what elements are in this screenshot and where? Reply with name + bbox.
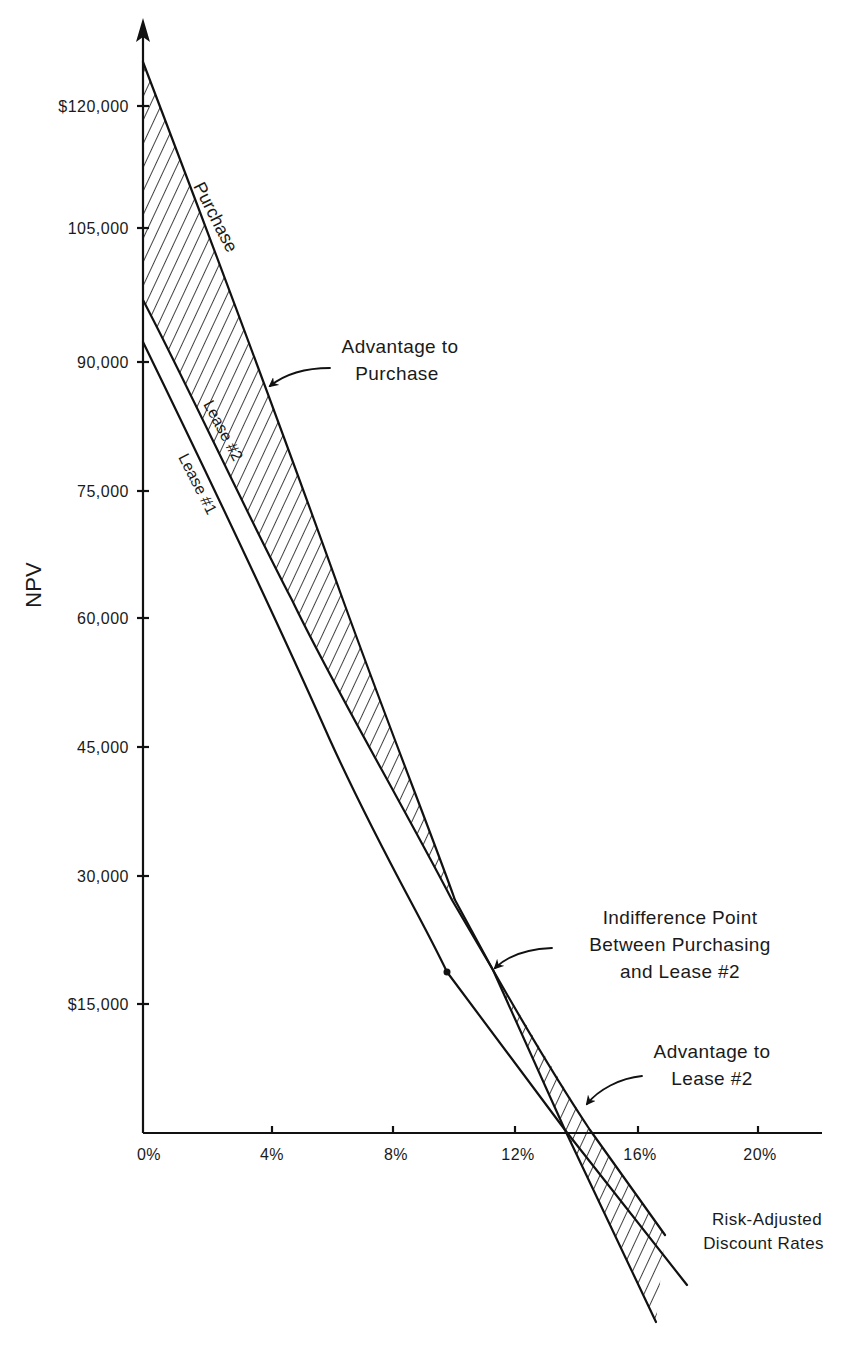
adv-lease2-text-2: Lease #2 <box>671 1068 752 1089</box>
x-tick-16: 16% <box>623 1146 657 1163</box>
y-tick-labels: $120,000 105,000 90,000 75,000 60,000 45… <box>58 98 129 1013</box>
x-tick-4: 4% <box>260 1146 284 1163</box>
x-tick-20: 20% <box>743 1146 777 1163</box>
adv-purchase-text-2: Purchase <box>355 363 438 384</box>
indiff-text-2: Between Purchasing <box>589 934 770 955</box>
y-tick-90000: 90,000 <box>77 354 129 371</box>
indiff-text-3: and Lease #2 <box>620 961 740 982</box>
x-tick-8: 8% <box>384 1146 408 1163</box>
y-tick-105000: 105,000 <box>68 220 129 237</box>
lease1-kink-point <box>444 969 451 976</box>
adv-purchase-arrow-icon <box>270 368 330 386</box>
adv-lease2-text-1: Advantage to <box>654 1041 771 1062</box>
x-tick-labels: 0% 4% 8% 12% 16% 20% <box>137 1146 777 1163</box>
npv-chart: $120,000 105,000 90,000 75,000 60,000 45… <box>0 0 844 1349</box>
indiff-arrow-icon <box>495 948 552 968</box>
x-tick-0: 0% <box>137 1146 161 1163</box>
y-tick-120000: $120,000 <box>58 98 129 115</box>
y-tick-75000: 75,000 <box>77 483 129 500</box>
x-axis-title-line1: Risk-Adjusted <box>712 1210 822 1229</box>
lease1-label: Lease #1 <box>175 451 220 517</box>
y-tick-30000: 30,000 <box>77 868 129 885</box>
adv-lease2-arrow-icon <box>587 1076 642 1104</box>
x-axis-title-line2: Discount Rates <box>703 1234 824 1253</box>
y-tick-60000: 60,000 <box>77 610 129 627</box>
y-tick-15000: $15,000 <box>68 996 129 1013</box>
y-axis-title: NPV <box>21 562 46 608</box>
y-tick-45000: 45,000 <box>77 739 129 756</box>
x-tick-12: 12% <box>501 1146 535 1163</box>
indiff-text-1: Indifference Point <box>603 907 758 928</box>
adv-purchase-text-1: Advantage to <box>342 336 459 357</box>
